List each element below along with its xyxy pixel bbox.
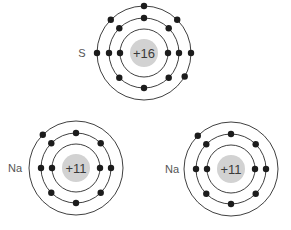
- atom-na: +11Na: [165, 122, 278, 216]
- electron-dot: [38, 165, 44, 171]
- electron-dot: [97, 165, 103, 171]
- electron-dot: [195, 133, 201, 139]
- electron-dot: [228, 131, 234, 137]
- electron-dot: [108, 165, 114, 171]
- electron-dot: [188, 50, 194, 56]
- electron-dot: [141, 85, 147, 91]
- electron-dot: [48, 140, 54, 146]
- electron-dot: [141, 15, 147, 21]
- electron-dot: [108, 17, 114, 23]
- electron-dot: [253, 141, 259, 147]
- electron-dot: [228, 201, 234, 207]
- electron-dot: [40, 132, 46, 138]
- electron-dot: [49, 165, 55, 171]
- electron-dot: [98, 140, 104, 146]
- electron-dot: [98, 190, 104, 196]
- electron-dot: [73, 130, 79, 136]
- electron-dot: [166, 25, 172, 31]
- electron-dot: [204, 166, 210, 172]
- electron-dot: [203, 141, 209, 147]
- electron-dot: [252, 166, 258, 172]
- electron-dot: [182, 73, 188, 79]
- electron-dot: [203, 191, 209, 197]
- electron-dot: [141, 3, 147, 9]
- electron-dot: [253, 191, 259, 197]
- nucleus-charge: +16: [133, 46, 155, 61]
- electron-dot: [116, 25, 122, 31]
- electron-dot: [116, 75, 122, 81]
- nucleus-charge: +11: [220, 162, 241, 177]
- electron-dot: [263, 166, 269, 172]
- electron-dot: [174, 17, 180, 23]
- atomic-diagram: +16S+11Na+11Na: [0, 0, 291, 230]
- electron-dot: [94, 50, 100, 56]
- electron-dot: [106, 50, 112, 56]
- electron-dot: [117, 50, 123, 56]
- electron-dot: [165, 50, 171, 56]
- element-symbol: S: [78, 47, 85, 59]
- element-symbol: Na: [165, 163, 180, 175]
- electron-dot: [193, 166, 199, 172]
- electron-dot: [48, 190, 54, 196]
- atom-na: +11Na: [8, 121, 123, 215]
- nucleus-charge: +11: [65, 161, 86, 176]
- atom-s: +16S: [78, 3, 194, 100]
- electron-dot: [176, 50, 182, 56]
- electron-dot: [166, 75, 172, 81]
- electron-dot: [73, 200, 79, 206]
- element-symbol: Na: [8, 162, 23, 174]
